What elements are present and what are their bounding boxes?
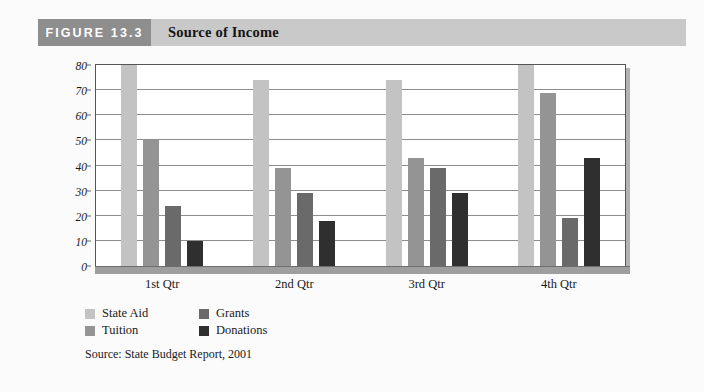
figure-number-tag: FIGURE 13.3 <box>38 19 151 46</box>
y-axis-tick-label-0: 0 <box>81 261 87 273</box>
bar-state-aid-3rd-qtr <box>386 80 402 266</box>
y-axis-tick-70 <box>87 90 91 91</box>
bar-state-aid-2nd-qtr <box>253 80 269 266</box>
y-axis-tick-label-30: 30 <box>76 186 88 198</box>
y-axis-tick-50 <box>87 140 91 141</box>
bar-group <box>493 65 625 266</box>
figure-page: FIGURE 13.3 Source of Income 01020304050… <box>0 0 704 392</box>
y-axis-tick-0 <box>87 266 91 267</box>
legend-label: Donations <box>216 323 267 338</box>
y-axis-tick-label-20: 20 <box>76 211 88 223</box>
bar-tuition-4th-qtr <box>540 93 556 266</box>
legend-item-tuition: Tuition <box>85 322 177 339</box>
bar-series-layer <box>96 65 625 266</box>
x-axis-tick-label-1: 1st Qtr <box>145 277 179 292</box>
axis-floor-band <box>95 267 630 274</box>
legend-swatch-icon <box>85 309 95 319</box>
y-axis-tick-40 <box>87 165 91 166</box>
bar-grants-3rd-qtr <box>430 168 446 266</box>
y-axis-tick-10 <box>87 240 91 241</box>
y-axis-tick-30 <box>87 190 91 191</box>
figure-header: FIGURE 13.3 Source of Income <box>38 19 686 46</box>
x-axis-tick-label-3: 3rd Qtr <box>408 277 444 292</box>
y-axis-tick-label-40: 40 <box>76 161 88 173</box>
x-axis: 1st Qtr2nd Qtr3rd Qtr4th Qtr <box>96 277 625 297</box>
y-axis-tick-label-70: 70 <box>76 85 88 97</box>
y-axis-tick-label-10: 10 <box>76 236 88 248</box>
bar-tuition-1st-qtr <box>143 140 159 266</box>
x-axis-tick-label-4: 4th Qtr <box>541 277 577 292</box>
y-axis-tick-60 <box>87 115 91 116</box>
figure-title: Source of Income <box>151 19 686 46</box>
legend-swatch-icon <box>85 326 95 336</box>
bar-grants-2nd-qtr <box>297 193 313 266</box>
legend-item-state-aid: State Aid <box>85 305 177 322</box>
legend-label: Tuition <box>102 323 138 338</box>
bar-grants-4th-qtr <box>562 218 578 266</box>
bar-grants-1st-qtr <box>165 206 181 266</box>
bar-state-aid-1st-qtr <box>121 65 137 266</box>
bar-donations-2nd-qtr <box>319 221 335 266</box>
bar-donations-3rd-qtr <box>452 193 468 266</box>
chart-container: 01020304050607080 1st Qtr2nd Qtr3rd Qtr4… <box>0 55 704 392</box>
bar-group <box>96 65 228 266</box>
y-axis-tick-label-80: 80 <box>76 60 88 72</box>
bar-donations-4th-qtr <box>584 158 600 266</box>
y-axis: 01020304050607080 <box>55 64 91 267</box>
legend-item-donations: Donations <box>199 322 267 339</box>
legend-item-grants: Grants <box>199 305 267 322</box>
legend-swatch-icon <box>199 326 209 336</box>
bar-tuition-2nd-qtr <box>275 168 291 266</box>
legend-label: Grants <box>216 306 249 321</box>
chart-legend: State AidGrantsTuitionDonations <box>85 305 267 339</box>
y-axis-tick-20 <box>87 215 91 216</box>
bar-group <box>361 65 493 266</box>
y-axis-tick-label-60: 60 <box>76 110 88 122</box>
bar-state-aid-4th-qtr <box>518 65 534 266</box>
bar-donations-1st-qtr <box>187 241 203 266</box>
y-axis-tick-80 <box>87 65 91 66</box>
legend-label: State Aid <box>102 306 148 321</box>
source-note: Source: State Budget Report, 2001 <box>85 347 252 362</box>
bar-group <box>228 65 360 266</box>
legend-swatch-icon <box>199 309 209 319</box>
bar-tuition-3rd-qtr <box>408 158 424 266</box>
y-axis-tick-label-50: 50 <box>76 135 88 147</box>
x-axis-tick-label-2: 2nd Qtr <box>275 277 314 292</box>
